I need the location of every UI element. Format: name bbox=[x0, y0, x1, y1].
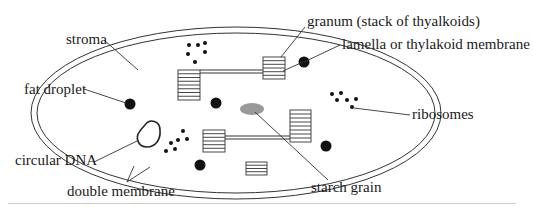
granum-4 bbox=[290, 110, 311, 142]
granum-5 bbox=[246, 162, 267, 175]
double-membrane bbox=[31, 27, 441, 199]
granum-2 bbox=[263, 57, 285, 79]
label-starch-grain: starch grain bbox=[311, 180, 381, 195]
circular-dna bbox=[137, 121, 160, 147]
label-ribosomes: ribosomes bbox=[412, 107, 474, 122]
divider-line bbox=[8, 203, 516, 204]
label-circular-dna: circular DNA bbox=[15, 153, 97, 168]
grana bbox=[178, 57, 311, 175]
label-stroma: stroma bbox=[66, 32, 107, 47]
starch-grain bbox=[240, 103, 264, 115]
label-granum: granum (stack of thyalkoids) bbox=[307, 14, 480, 29]
chloroplast-diagram: stroma granum (stack of thyalkoids) lame… bbox=[0, 0, 533, 209]
granum-1 bbox=[178, 70, 200, 100]
label-fat-droplet: fat droplet bbox=[24, 82, 86, 97]
label-double-membrane: double membrane bbox=[67, 184, 175, 199]
label-lamella: lamella or thylakoid membrane bbox=[342, 37, 530, 52]
granum-3 bbox=[203, 130, 225, 152]
